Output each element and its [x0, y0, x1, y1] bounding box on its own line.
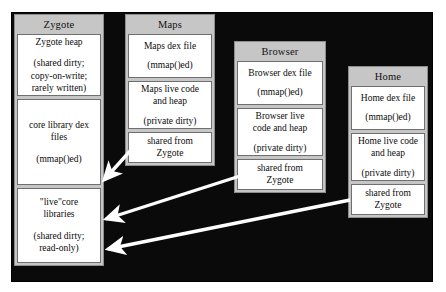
- browser-shared-label-2: Zygote: [267, 174, 294, 187]
- browser-live-code-cell: Browser live code and heap (private dirt…: [237, 108, 323, 156]
- browser-shared-label-1: shared from: [257, 162, 303, 175]
- maps-dex-file-cell: Maps dex file (mmap()ed): [128, 34, 212, 78]
- zygote-live-core-note-2: read-only): [39, 242, 79, 255]
- browser-live-label-1: Browser live: [256, 110, 305, 123]
- zygote-core-library-dex-cell: core library dex files (mmap()ed): [17, 99, 101, 185]
- zygote-core-dex-label-2: files: [51, 131, 67, 144]
- maps-shared-label-2: Zygote: [157, 147, 184, 160]
- maps-shared-label-1: shared from: [147, 135, 193, 148]
- process-column-home: Home Home dex file (mmap()ed) Home live …: [348, 66, 428, 218]
- zygote-heap-cell: Zygote heap (shared dirty; copy-on-write…: [17, 34, 101, 96]
- zygote-live-core-label-1: "live"core: [40, 196, 78, 209]
- maps-dex-note: (mmap()ed): [147, 59, 192, 72]
- zygote-core-dex-label-1: core library dex: [29, 119, 89, 132]
- home-shared-cell: shared from Zygote: [351, 184, 425, 215]
- browser-shared-cell: shared from Zygote: [237, 159, 323, 190]
- column-title-zygote: Zygote: [17, 17, 101, 31]
- column-title-browser: Browser: [237, 44, 323, 58]
- zygote-live-core-note-1: (shared dirty;: [34, 230, 85, 243]
- home-dex-note: (mmap()ed): [365, 111, 410, 124]
- column-title-home: Home: [351, 69, 425, 83]
- zygote-live-core-label-2: libraries: [43, 208, 74, 221]
- home-live-label-2: and heap: [371, 147, 405, 160]
- process-column-zygote: Zygote Zygote heap (shared dirty; copy-o…: [14, 14, 104, 266]
- browser-dex-note: (mmap()ed): [257, 86, 302, 99]
- zygote-live-core-libraries-cell: "live"core libraries (shared dirty; read…: [17, 188, 101, 263]
- browser-live-label-2: code and heap: [253, 122, 307, 135]
- zygote-heap-note-1: (shared dirty;: [34, 57, 85, 70]
- memory-sharing-diagram: Zygote Zygote heap (shared dirty; copy-o…: [0, 0, 446, 292]
- maps-dex-label: Maps dex file: [144, 40, 196, 53]
- home-shared-label-2: Zygote: [375, 199, 402, 212]
- home-live-label-1: Home live code: [358, 135, 418, 148]
- maps-live-code-cell: Maps live code and heap (private dirty): [128, 81, 212, 129]
- maps-shared-cell: shared from Zygote: [128, 132, 212, 163]
- browser-dex-label: Browser dex file: [248, 67, 311, 80]
- zygote-heap-note-3: rarely written): [32, 82, 87, 95]
- process-column-maps: Maps Maps dex file (mmap()ed) Maps live …: [125, 14, 215, 166]
- home-live-note: (private dirty): [361, 167, 414, 180]
- home-dex-file-cell: Home dex file (mmap()ed): [351, 86, 425, 130]
- browser-live-note: (private dirty): [253, 142, 306, 155]
- process-column-browser: Browser Browser dex file (mmap()ed) Brow…: [234, 41, 326, 193]
- maps-live-note: (private dirty): [143, 115, 196, 128]
- home-live-code-cell: Home live code and heap (private dirty): [351, 133, 425, 181]
- zygote-heap-note-2: copy-on-write;: [31, 70, 87, 83]
- zygote-heap-label: Zygote heap: [35, 36, 82, 49]
- maps-live-label-1: Maps live code: [141, 83, 199, 96]
- maps-live-label-2: and heap: [153, 95, 187, 108]
- home-shared-label-1: shared from: [365, 187, 411, 200]
- zygote-core-dex-note: (mmap()ed): [36, 153, 81, 166]
- browser-dex-file-cell: Browser dex file (mmap()ed): [237, 61, 323, 105]
- home-dex-label: Home dex file: [361, 92, 415, 105]
- column-title-maps: Maps: [128, 17, 212, 31]
